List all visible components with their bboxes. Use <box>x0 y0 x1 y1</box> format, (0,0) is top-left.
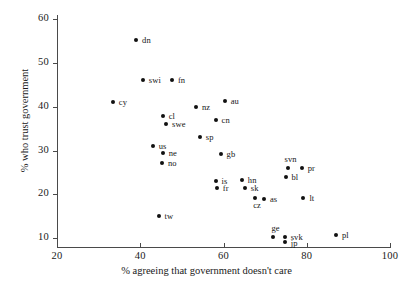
data-point-label-ge: ge <box>271 224 279 233</box>
data-point-swi <box>141 78 145 82</box>
data-point-gb <box>219 152 223 156</box>
data-point-label-no: no <box>168 159 177 168</box>
scatter-chart: 20406080100 102030405060 dnswifncyaunzcl… <box>0 0 413 286</box>
data-point-fn <box>170 78 174 82</box>
x-tick-mark <box>307 243 308 247</box>
data-point-label-gb: gb <box>227 150 236 159</box>
data-point-label-jp: jp <box>291 239 298 248</box>
data-point-us <box>151 144 155 148</box>
y-tick-mark <box>53 151 57 152</box>
y-tick-mark <box>53 194 57 195</box>
x-tick-mark <box>224 243 225 247</box>
y-tick-label: 60 <box>21 12 49 23</box>
data-point-label-sp: sp <box>206 133 214 142</box>
data-point-label-svn: svn <box>285 155 297 164</box>
data-point-label-pl: pl <box>342 231 349 240</box>
data-point-pr <box>300 166 304 170</box>
data-point-cl <box>161 114 165 118</box>
x-axis-line <box>57 247 391 248</box>
data-point-tw <box>157 214 161 218</box>
data-point-cy <box>111 100 115 104</box>
data-point-dn <box>134 38 138 42</box>
data-point-label-fr: fr <box>223 184 229 193</box>
data-point-swe <box>164 122 168 126</box>
data-point-lt <box>301 196 305 200</box>
x-tick-label: 40 <box>120 250 160 261</box>
data-point-ge <box>271 235 275 239</box>
data-point-label-sk: sk <box>251 184 259 193</box>
data-point-label-as: as <box>270 195 277 204</box>
data-point-is <box>214 179 218 183</box>
x-tick-label: 60 <box>204 250 244 261</box>
data-point-label-nz: nz <box>202 103 210 112</box>
data-point-label-fn: fn <box>178 76 185 85</box>
x-tick-label: 20 <box>37 250 77 261</box>
data-point-no <box>160 161 164 165</box>
data-point-label-ne: ne <box>169 149 177 158</box>
data-point-ne <box>161 151 165 155</box>
x-tick-label: 80 <box>287 250 327 261</box>
y-tick-mark <box>53 238 57 239</box>
data-point-nz <box>194 105 198 109</box>
x-tick-mark <box>57 243 58 247</box>
data-point-label-bl: bl <box>292 173 299 182</box>
data-point-label-us: us <box>159 142 167 151</box>
data-point-as <box>262 197 266 201</box>
data-point-pl <box>334 233 338 237</box>
data-point-label-cy: cy <box>119 98 127 107</box>
data-point-jp <box>283 240 287 244</box>
data-point-au <box>223 99 227 103</box>
data-point-sk <box>243 186 247 190</box>
data-point-label-au: au <box>231 97 239 106</box>
data-point-bl <box>284 175 288 179</box>
y-axis-title: % who trust government <box>19 31 30 211</box>
data-point-label-tw: tw <box>165 212 174 221</box>
x-tick-mark <box>140 243 141 247</box>
y-tick-mark <box>53 19 57 20</box>
x-tick-mark <box>390 243 391 247</box>
data-point-sp <box>198 135 202 139</box>
y-tick-mark <box>53 107 57 108</box>
data-point-label-dn: dn <box>142 36 151 45</box>
data-point-label-lt: lt <box>309 194 314 203</box>
data-point-cn <box>214 118 218 122</box>
x-axis-title: % agreeing that government doesn't care <box>0 265 413 276</box>
data-point-label-swi: swi <box>149 76 161 85</box>
y-axis-line <box>57 15 58 248</box>
data-point-svk <box>283 235 287 239</box>
x-tick-label: 100 <box>370 250 410 261</box>
data-point-label-pr: pr <box>308 164 315 173</box>
data-point-hn <box>240 178 244 182</box>
data-point-fr <box>215 186 219 190</box>
y-tick-label: 10 <box>21 231 49 242</box>
data-point-label-cn: cn <box>222 116 230 125</box>
data-point-label-cz: cz <box>253 201 261 210</box>
data-point-svn <box>286 166 290 170</box>
data-point-label-swe: swe <box>172 120 186 129</box>
y-tick-mark <box>53 63 57 64</box>
